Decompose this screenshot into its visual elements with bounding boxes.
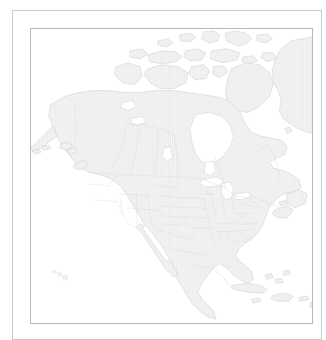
region-lesser-antilles [310,302,312,307]
inner-frame [30,28,313,324]
north-america-map[interactable] [31,29,312,323]
